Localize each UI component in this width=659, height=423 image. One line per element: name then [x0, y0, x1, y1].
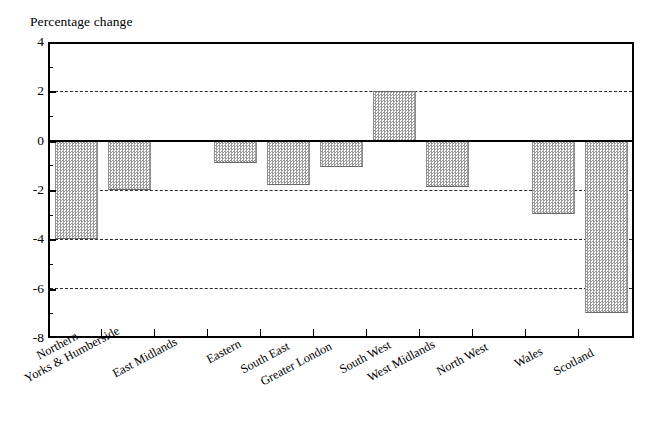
y-tick-mark-3	[48, 67, 53, 68]
y-tick-label-neg2: -2	[10, 183, 44, 197]
bar-greater-london	[320, 140, 363, 167]
y-tick-mark-neg3	[48, 215, 53, 216]
bar-wales	[532, 140, 575, 214]
bars-layer	[50, 44, 632, 336]
bar-west-midlands	[426, 140, 469, 187]
bar-eastern	[214, 140, 257, 162]
x-label-north-west: North West	[434, 340, 491, 380]
y-axis-labels: 4 2 0 -2 -4 -6 -8	[0, 42, 44, 338]
x-axis-labels: Northern Yorks & Humberside East Midland…	[0, 340, 659, 423]
bar-south-east	[267, 140, 310, 184]
y-tick-label-neg4: -4	[10, 233, 44, 247]
bar-yorks-humberside	[108, 140, 151, 189]
y-tick-label-neg6: -6	[10, 282, 44, 296]
plot-area	[48, 42, 634, 338]
bar-south-west	[373, 91, 416, 140]
x-label-scotland: Scotland	[551, 346, 596, 380]
y-tick-mark-0	[48, 141, 56, 143]
y-tick-mark-neg5	[48, 264, 53, 265]
y-tick-mark-neg7	[48, 313, 53, 314]
x-tick-11	[632, 329, 633, 338]
zero-axis-line	[50, 140, 632, 142]
x-label-wales: Wales	[512, 344, 546, 371]
bar-chart: Percentage change 4 2 0 -2 -4 -6 -8	[0, 0, 659, 423]
y-tick-label-0: 0	[10, 134, 44, 148]
bar-northern	[55, 140, 98, 239]
x-label-east-midlands: East Midlands	[110, 335, 180, 382]
y-tick-mark-neg4	[48, 239, 56, 241]
y-tick-mark-neg6	[48, 289, 56, 291]
y-tick-mark-neg1	[48, 165, 53, 166]
y-axis-ticks	[48, 42, 60, 338]
y-tick-mark-neg2	[48, 190, 56, 192]
y-tick-mark-2	[48, 91, 56, 93]
y-tick-mark-1	[48, 116, 53, 117]
y-tick-label-4: 4	[10, 35, 44, 49]
y-tick-mark-4	[48, 42, 56, 44]
y-tick-label-2: 2	[10, 85, 44, 99]
bar-scotland	[585, 140, 628, 313]
chart-title: Percentage change	[30, 14, 133, 30]
